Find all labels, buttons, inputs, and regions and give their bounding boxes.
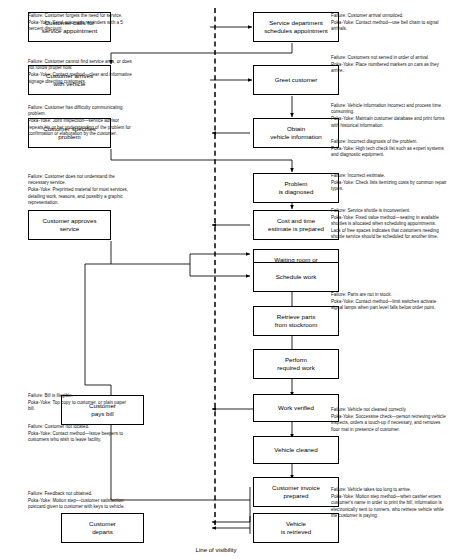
box-line: Problem: [279, 180, 314, 188]
note-poka-yoke: Poka-Yoke: Contact method—use bell chain…: [331, 20, 447, 33]
box-line: departs: [89, 528, 116, 536]
box-line: is retrieved: [281, 528, 311, 536]
note-poka-yoke: Poka-Yoke: Motion step method—when cashi…: [331, 494, 447, 520]
note-failure: Failure: Vehicle not cleaned correctly.: [331, 407, 447, 413]
box-schedule-work: Schedule work: [253, 262, 339, 292]
box-greet-customer: Greet customer: [253, 65, 339, 95]
note-failure: Failure: Customer cannot find service ar…: [28, 59, 132, 72]
note-poka-yoke: Poka-Yoke: Send automatic reminders with…: [28, 20, 132, 33]
note-poka-yoke: Poka-Yoke: Preprinted material for most …: [28, 187, 132, 206]
box-perform-required-work: Perform required work: [253, 349, 339, 379]
box-line: vehicle information: [270, 133, 322, 141]
box-line: Perform: [277, 356, 315, 364]
note-parts-not-in-stock: Failure: Parts are not in stock. Poka-Yo…: [331, 292, 447, 312]
note-failure: Failure: Vehicle information incorrect a…: [331, 103, 447, 116]
box-customer-invoice-prepared: Customer invoice prepared: [253, 477, 339, 507]
note-feedback-not-obtained: Failure: Feedback not obtained. Poka-Yok…: [28, 491, 132, 511]
box-customer-approves-service: Customer approves service: [28, 210, 111, 240]
box-vehicle-is-retrieved: Vehicle is retrieved: [253, 513, 339, 543]
box-problem-is-diagnosed: Problem is diagnosed: [253, 173, 339, 203]
box-line: Customer: [89, 520, 116, 528]
note-failure: Failure: Customer forgets the need for s…: [28, 13, 132, 19]
note-customer-not-located: Failure: Customer not located. Poka-Yoke…: [28, 424, 132, 444]
box-line: Service department: [264, 19, 328, 27]
note-failure: Failure: Customer not located.: [28, 424, 132, 430]
note-failure: Failure: Parts are not in stock.: [331, 292, 447, 298]
note-poka-yoke: Poka-Yoke: Place numbered markers on car…: [331, 62, 447, 75]
note-poka-yoke: Poka-Yoke: Joint inspection—service advi…: [28, 118, 132, 137]
note-cannot-find-service-area: Failure: Customer cannot find service ar…: [28, 59, 132, 85]
box-line: from stockroom: [275, 321, 318, 329]
note-incorrect-estimate: Failure: Incorrect estimate. Poka-Yoke: …: [331, 173, 447, 193]
box-vehicle-cleaned: Vehicle cleaned: [253, 436, 339, 464]
note-poka-yoke: Poka-Yoke: Fixed value method—seating in…: [331, 215, 447, 241]
box-line: service: [43, 225, 97, 233]
note-failure: Failure: Customer arrival unnoticed.: [331, 13, 447, 19]
box-line: prepared: [272, 492, 320, 500]
note-difficulty-communicating: Failure: Customer has difficulty communi…: [28, 105, 132, 138]
note-poka-yoke: Poka-Yoke: Motion step—customer satisfac…: [28, 498, 132, 511]
box-line: Customer invoice: [272, 484, 320, 492]
note-failure: Failure: Customer has difficulty communi…: [28, 105, 132, 118]
note-poka-yoke: Poka-Yoke: High tech check list such as …: [331, 146, 447, 159]
box-line: Cost and time: [268, 217, 324, 225]
note-poka-yoke: Poka-Yoke: Top copy to customer, or plai…: [28, 400, 132, 413]
box-obtain-vehicle-information: Obtain vehicle information: [253, 118, 339, 148]
note-failure: Failure: Feedback not obtained.: [28, 491, 132, 497]
box-service-department-schedules: Service department schedules appointment: [253, 12, 339, 42]
box-line: Work verified: [278, 404, 314, 412]
note-forgets-need: Failure: Customer forgets the need for s…: [28, 13, 132, 33]
box-line: Schedule work: [276, 273, 317, 281]
note-failure: Failure: Customer does not understand th…: [28, 174, 132, 187]
note-poka-yoke: Poka-Yoke: Maintain customer database an…: [331, 116, 447, 129]
note-does-not-understand-service: Failure: Customer does not understand th…: [28, 174, 132, 207]
box-customer-departs: Customer departs: [61, 513, 144, 543]
line-of-visibility-label: Line of visibility: [171, 546, 261, 553]
note-incorrect-diagnosis: Failure: Incorrect diagnosis of the prob…: [331, 139, 447, 159]
box-line: estimate is prepared: [268, 225, 324, 233]
box-work-verified: Work verified: [253, 394, 339, 422]
note-vehicle-takes-too-long: Failure: Vehicle takes too long to arriv…: [331, 487, 447, 520]
note-vehicle-not-cleaned: Failure: Vehicle not cleaned correctly. …: [331, 407, 447, 433]
note-failure: Failure: Customers not served in order o…: [331, 55, 447, 61]
box-line: Retrieve parts: [275, 313, 318, 321]
note-not-served-in-order: Failure: Customers not served in order o…: [331, 55, 447, 75]
note-failure: Failure: Vehicle takes too long to arriv…: [331, 487, 447, 493]
note-vehicle-information-incorrect: Failure: Vehicle information incorrect a…: [331, 103, 447, 129]
note-poka-yoke: Poka-Yoke: Successive check—person retri…: [331, 414, 447, 433]
note-poka-yoke: Poka-Yoke: Contact method—clear and info…: [28, 72, 132, 85]
box-line: schedules appointment: [264, 27, 328, 35]
box-line: is diagnosed: [279, 188, 314, 196]
note-failure: Failure: Incorrect diagnosis of the prob…: [331, 139, 447, 145]
note-failure: Failure: Incorrect estimate.: [331, 173, 447, 179]
box-line: Greet customer: [275, 76, 318, 84]
box-retrieve-parts: Retrieve parts from stockroom: [253, 306, 339, 336]
box-line: Vehicle: [281, 520, 311, 528]
service-blueprint-diagram: Customer calls for service appointment C…: [0, 0, 450, 559]
note-failure: Failure: Bill is illegible.: [28, 393, 132, 399]
note-arrival-unnoticed: Failure: Customer arrival unnoticed. Pok…: [331, 13, 447, 33]
note-failure: Failure: Service shuttle is inconvenient…: [331, 208, 447, 214]
box-line: Customer approves: [43, 217, 97, 225]
note-bill-illegible: Failure: Bill is illegible. Poka-Yoke: T…: [28, 393, 132, 413]
note-poka-yoke: Poka-Yoke: Contact method—Issue beepers …: [28, 431, 132, 444]
box-line: required work: [277, 364, 315, 372]
box-line: Vehicle cleaned: [274, 446, 317, 454]
note-poka-yoke: Poka-Yoke: Contact method—limit switches…: [331, 299, 447, 312]
box-line: Obtain: [270, 125, 322, 133]
note-poka-yoke: Poka-Yoke: Check lists itemizing costs b…: [331, 180, 447, 193]
box-cost-and-time-estimate: Cost and time estimate is prepared: [253, 210, 339, 240]
note-shuttle-inconvenient: Failure: Service shuttle is inconvenient…: [331, 208, 447, 241]
